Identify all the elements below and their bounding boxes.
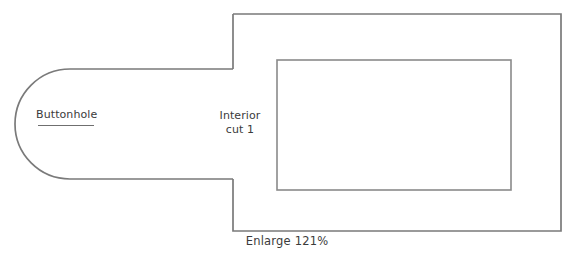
pattern-outline-svg [0, 0, 574, 255]
buttonhole-mark [38, 125, 94, 126]
enlarge-caption: Enlarge 121% [0, 234, 574, 248]
rounded-tab-path [15, 69, 233, 179]
interior-label: Interior cut 1 [209, 109, 271, 137]
inner-rectangle-path [277, 60, 511, 190]
buttonhole-label: Buttonhole [36, 108, 97, 122]
interior-label-line1: Interior [220, 109, 261, 122]
pattern-diagram: Buttonhole Interior cut 1 Enlarge 121% [0, 0, 574, 255]
interior-label-line2: cut 1 [209, 123, 271, 137]
